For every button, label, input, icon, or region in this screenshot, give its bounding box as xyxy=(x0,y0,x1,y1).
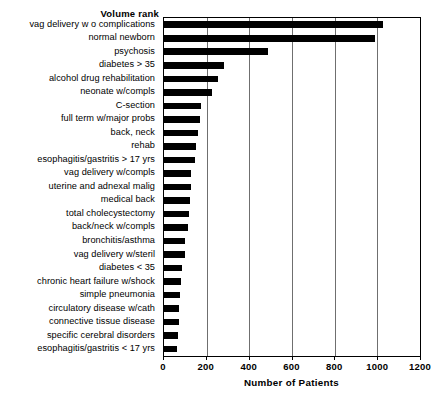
x-tick xyxy=(334,356,335,360)
bar-row xyxy=(164,45,420,59)
x-tick-label: 600 xyxy=(283,361,299,373)
bar-row xyxy=(164,180,420,194)
bar-row xyxy=(164,302,420,316)
bar-row xyxy=(164,288,420,302)
bar xyxy=(164,143,196,150)
category-label: bronchitis/asthma xyxy=(0,233,159,247)
x-tick-label: 800 xyxy=(326,361,342,373)
category-label: C-section xyxy=(0,98,159,112)
bar-row xyxy=(164,234,420,248)
bar xyxy=(164,211,189,218)
bar-row xyxy=(164,126,420,140)
bar xyxy=(164,21,383,28)
category-axis-labels: vag delivery w o complicationsnormal new… xyxy=(0,17,159,355)
category-label: esophagitis/gastritis > 17 yrs xyxy=(0,152,159,166)
bar xyxy=(164,103,201,110)
bar-row xyxy=(164,153,420,167)
bar-row xyxy=(164,194,420,208)
x-tick xyxy=(206,356,207,360)
category-label: vag delivery w o complications xyxy=(0,17,159,31)
x-tick-label: 0 xyxy=(160,361,165,373)
category-label: vag delivery w/compls xyxy=(0,166,159,180)
bar-row xyxy=(164,329,420,343)
category-label: esophagitis/gastritis < 17 yrs xyxy=(0,341,159,355)
category-label: circulatory disease w/cath xyxy=(0,301,159,315)
x-tick-label: 400 xyxy=(240,361,256,373)
x-tick xyxy=(377,356,378,360)
category-label: simple pneumonia xyxy=(0,287,159,301)
bar xyxy=(164,89,212,96)
category-label: diabetes > 35 xyxy=(0,58,159,72)
category-label: neonate w/compls xyxy=(0,85,159,99)
category-label: medical back xyxy=(0,193,159,207)
x-axis-title: Number of Patients xyxy=(163,377,420,388)
category-label: total cholecystectomy xyxy=(0,206,159,220)
bar-row xyxy=(164,59,420,73)
bar-row xyxy=(164,167,420,181)
plot-area xyxy=(163,17,421,357)
bar xyxy=(164,332,178,339)
bar-row xyxy=(164,86,420,100)
x-tick-label: 200 xyxy=(198,361,214,373)
category-label: back/neck w/compls xyxy=(0,220,159,234)
bar-row xyxy=(164,113,420,127)
bar-row xyxy=(164,221,420,235)
x-tick xyxy=(249,356,250,360)
category-label: normal newborn xyxy=(0,31,159,45)
bar xyxy=(164,224,188,231)
bar xyxy=(164,170,191,177)
x-tick xyxy=(163,356,164,360)
category-label: full term w/major probs xyxy=(0,112,159,126)
category-label: uterine and adnexal malig xyxy=(0,179,159,193)
bar xyxy=(164,130,198,137)
x-axis-tick-labels: 020040060080010001200 xyxy=(163,361,420,375)
bar xyxy=(164,76,218,83)
category-label: psychosis xyxy=(0,44,159,58)
bar xyxy=(164,292,180,299)
bar xyxy=(164,48,268,55)
bar-row xyxy=(164,72,420,86)
bar-row xyxy=(164,99,420,113)
bar-row xyxy=(164,342,420,356)
bar xyxy=(164,305,179,312)
bar xyxy=(164,184,191,191)
bar xyxy=(164,278,181,285)
x-tick-label: 1000 xyxy=(366,361,388,373)
bar-row xyxy=(164,140,420,154)
category-label: alcohol drug rehabilitation xyxy=(0,71,159,85)
bar xyxy=(164,35,375,42)
x-tick-label: 1200 xyxy=(409,361,431,373)
bar xyxy=(164,265,182,272)
category-label: diabetes < 35 xyxy=(0,260,159,274)
bar xyxy=(164,116,200,123)
bar xyxy=(164,319,179,326)
bar xyxy=(164,251,185,258)
category-label: chronic heart failure w/shock xyxy=(0,274,159,288)
category-label: back, neck xyxy=(0,125,159,139)
bar-row xyxy=(164,261,420,275)
bar-row xyxy=(164,18,420,32)
bar-row xyxy=(164,207,420,221)
bar xyxy=(164,197,190,204)
bar-row xyxy=(164,275,420,289)
bar-row xyxy=(164,32,420,46)
bar xyxy=(164,62,224,69)
x-tick xyxy=(420,356,421,360)
bar-series xyxy=(164,18,420,356)
bar xyxy=(164,238,185,245)
bar-row xyxy=(164,315,420,329)
category-label: connective tissue disease xyxy=(0,314,159,328)
bar xyxy=(164,346,177,353)
category-label: specific cerebral disorders xyxy=(0,328,159,342)
bar xyxy=(164,157,195,164)
volume-rank-bar-chart: Volume rank vag delivery w o complicatio… xyxy=(0,0,439,400)
category-label: vag delivery w/steril xyxy=(0,247,159,261)
category-label: rehab xyxy=(0,139,159,153)
bar-row xyxy=(164,248,420,262)
x-tick xyxy=(292,356,293,360)
